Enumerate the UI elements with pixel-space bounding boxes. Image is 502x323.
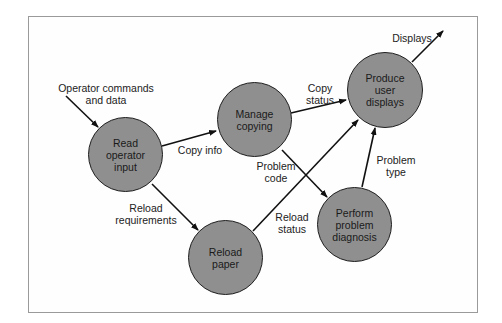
label-problem-type: Problem type bbox=[376, 154, 416, 178]
node-perform-problem-diagnosis: Perform problem diagnosis bbox=[317, 187, 392, 262]
node-label: Perform problem diagnosis bbox=[332, 207, 376, 243]
node-label: Read operator input bbox=[106, 137, 145, 173]
label-reload-requirements: Reload requirements bbox=[112, 202, 180, 226]
node-label: Reload paper bbox=[209, 246, 242, 270]
node-label: Produce user displays bbox=[365, 72, 404, 108]
node-produce-user-displays: Produce user displays bbox=[347, 52, 423, 128]
node-reload-paper: Reload paper bbox=[188, 220, 263, 295]
label-displays: Displays bbox=[389, 32, 435, 44]
node-label: Manage copying bbox=[236, 108, 274, 132]
label-operator-commands: Operator commands and data bbox=[58, 82, 154, 106]
diagram-canvas: Read operator input Manage copying Produ… bbox=[0, 0, 502, 323]
label-copy-status: Copy status bbox=[300, 82, 340, 106]
edge-diagnose-to-produce bbox=[362, 128, 375, 187]
node-read-operator-input: Read operator input bbox=[88, 117, 163, 192]
label-problem-code: Problem code bbox=[253, 160, 299, 184]
label-copy-info: Copy info bbox=[170, 144, 230, 156]
label-reload-status: Reload status bbox=[272, 211, 312, 235]
